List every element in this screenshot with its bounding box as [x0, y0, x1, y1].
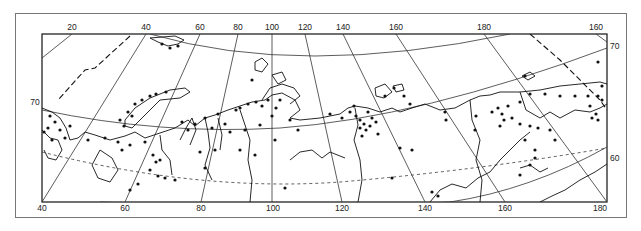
latitude-labels: 70 70 60 — [30, 41, 619, 163]
lon-label: 160 — [389, 22, 403, 32]
top-longitude-labels: 20 40 60 80 100 120 140 160 180 160 — [67, 22, 603, 32]
latitude-lines — [42, 34, 607, 206]
lon-label: 40 — [141, 22, 151, 32]
boundary-lines — [58, 34, 607, 110]
lon-label: 120 — [298, 22, 312, 32]
lon-label: 140 — [336, 22, 350, 32]
lat-label: 70 — [610, 41, 620, 51]
lat-label: 60 — [610, 153, 620, 163]
coastlines — [42, 36, 607, 202]
lon-label: 180 — [593, 203, 607, 213]
lon-label: 100 — [266, 203, 280, 213]
lon-label: 20 — [67, 22, 77, 32]
lon-label: 120 — [335, 203, 349, 213]
lon-label: 60 — [120, 203, 130, 213]
lon-label: 180 — [477, 22, 491, 32]
lat-label: 70 — [30, 97, 40, 107]
lon-label: 140 — [418, 203, 432, 213]
lon-label: 160 — [589, 22, 603, 32]
lon-label: 60 — [195, 22, 205, 32]
lon-label: 80 — [196, 203, 206, 213]
lon-label: 100 — [265, 22, 279, 32]
map-canvas: 20 40 60 80 100 120 140 160 180 160 40 6… — [0, 0, 641, 231]
lon-label: 40 — [37, 203, 47, 213]
bottom-longitude-labels: 40 60 80 100 120 140 160 180 — [37, 203, 607, 213]
lon-label: 160 — [498, 203, 512, 213]
lon-label: 80 — [233, 22, 243, 32]
